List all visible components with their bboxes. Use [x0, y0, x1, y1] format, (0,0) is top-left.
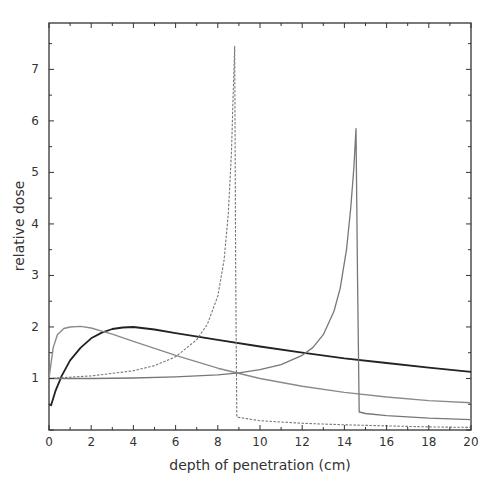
series-line-3 [49, 129, 471, 420]
axis-ticks: 024681012141618201234567 [31, 23, 478, 449]
x-tick-label: 20 [463, 435, 478, 449]
x-tick-label: 18 [421, 435, 436, 449]
series-layer [49, 46, 471, 427]
y-tick-label: 6 [31, 114, 39, 128]
x-tick-label: 16 [379, 435, 394, 449]
x-axis-label: depth of penetration (cm) [169, 457, 350, 473]
x-tick-label: 14 [337, 435, 352, 449]
x-tick-label: 6 [172, 435, 180, 449]
y-tick-label: 7 [31, 62, 39, 76]
y-tick-label: 1 [31, 371, 39, 385]
y-tick-label: 4 [31, 217, 39, 231]
x-tick-label: 2 [87, 435, 95, 449]
y-tick-label: 3 [31, 268, 39, 282]
plot-frame [49, 23, 471, 430]
y-tick-label: 2 [31, 320, 39, 334]
x-tick-label: 12 [295, 435, 310, 449]
dose-depth-chart: 024681012141618201234567 depth of penetr… [0, 0, 487, 490]
x-tick-label: 0 [45, 435, 53, 449]
y-axis-label: relative dose [11, 181, 27, 272]
y-tick-label: 5 [31, 165, 39, 179]
x-tick-label: 4 [130, 435, 138, 449]
series-line-0 [49, 327, 471, 405]
x-tick-label: 10 [252, 435, 267, 449]
x-tick-label: 8 [214, 435, 222, 449]
plot-border [49, 23, 471, 430]
